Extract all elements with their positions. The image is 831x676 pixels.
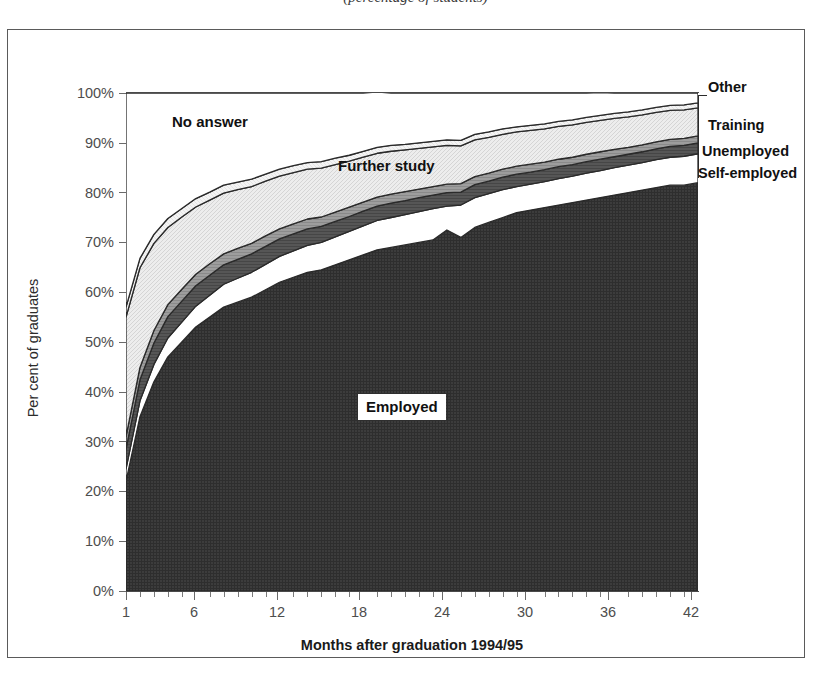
annotation-further-study: Further study [338,157,435,174]
ytick-label-20: 20% [68,484,114,499]
ytick-label-10: 10% [68,534,114,549]
figure-container: (percentage of students) 100% 90% 80% 70… [0,0,831,676]
xtick-minor-38 [642,592,643,597]
xtick-major-36 [608,592,609,600]
xtick-minor-22 [419,592,420,597]
xtick-minor-9 [238,592,239,597]
ytick-mark-100 [119,93,126,94]
xtick-minor-40 [670,592,671,597]
xtick-minor-10 [252,592,253,597]
xtick-minor-39 [656,592,657,597]
xtick-minor-8 [224,592,225,597]
xtick-minor-35 [600,592,601,597]
xtick-major-1 [126,592,127,600]
xtick-major-18 [359,592,360,600]
xtick-minor-29 [517,592,518,597]
xtick-minor-33 [572,592,573,597]
xtick-minor-13 [293,592,294,597]
xtick-label-36: 36 [588,604,628,620]
xtick-minor-21 [405,592,406,597]
side-label-other: Other [708,79,747,95]
ytick-mark-50 [119,342,126,343]
ytick-mark-10 [119,541,126,542]
xtick-minor-26 [475,592,476,597]
leader-line-other-h [698,95,707,96]
xtick-minor-19 [377,592,378,597]
xtick-minor-3 [154,592,155,597]
xtick-minor-41 [684,592,685,597]
xtick-label-24: 24 [422,604,462,620]
xtick-major-30 [525,592,526,600]
ytick-mark-90 [119,143,126,144]
xtick-label-30: 30 [505,604,545,620]
xtick-minor-17 [349,592,350,597]
ytick-label-0: 0% [68,584,114,599]
figure-caption: (percentage of students) [0,0,831,6]
xtick-minor-16 [335,592,336,597]
leader-line-training [698,110,699,155]
caption-strip: (percentage of students) [0,0,831,14]
ytick-label-90: 90% [68,136,114,151]
xtick-label-18: 18 [339,604,379,620]
ytick-mark-30 [119,441,126,442]
xtick-major-42 [691,592,692,600]
xtick-minor-4 [168,592,169,597]
xtick-label-6: 6 [174,604,214,620]
xtick-minor-31 [545,592,546,597]
side-label-self-employed: Self-employed [698,165,797,181]
ytick-mark-70 [119,242,126,243]
xtick-minor-28 [503,592,504,597]
y-axis-title-wrap: Per cent of graduates [22,225,44,475]
xtick-label-42: 42 [671,604,711,620]
ytick-label-30: 30% [68,435,114,450]
xtick-minor-37 [628,592,629,597]
ytick-mark-40 [119,392,126,393]
xtick-minor-34 [586,592,587,597]
plot-axis-bottom [126,591,699,592]
side-label-unemployed: Unemployed [702,143,789,159]
xtick-minor-20 [391,592,392,597]
annotation-employed: Employed [358,394,446,420]
xtick-minor-14 [307,592,308,597]
x-axis-title: Months after graduation 1994/95 [126,637,698,653]
ytick-label-40: 40% [68,385,114,400]
xtick-major-12 [277,592,278,600]
xtick-minor-32 [558,592,559,597]
ytick-mark-0 [119,591,126,592]
xtick-minor-27 [489,592,490,597]
xtick-major-24 [442,592,443,600]
xtick-minor-2 [140,592,141,597]
ytick-label-60: 60% [68,285,114,300]
ytick-label-70: 70% [68,235,114,250]
xtick-label-1: 1 [106,604,146,620]
annotation-no-answer: No answer [172,113,248,130]
side-label-training: Training [708,117,764,133]
xtick-minor-25 [461,592,462,597]
ytick-label-100: 100% [68,86,114,101]
ytick-mark-20 [119,491,126,492]
xtick-major-6 [194,592,195,600]
xtick-minor-5 [182,592,183,597]
xtick-minor-7 [210,592,211,597]
ytick-mark-60 [119,292,126,293]
ytick-label-80: 80% [68,186,114,201]
y-axis-title: Per cent of graduates [25,223,41,473]
xtick-minor-15 [321,592,322,597]
xtick-minor-11 [266,592,267,597]
xtick-label-12: 12 [257,604,297,620]
xtick-minor-23 [433,592,434,597]
leader-line-other [698,95,699,110]
ytick-label-50: 50% [68,335,114,350]
ytick-mark-80 [119,192,126,193]
